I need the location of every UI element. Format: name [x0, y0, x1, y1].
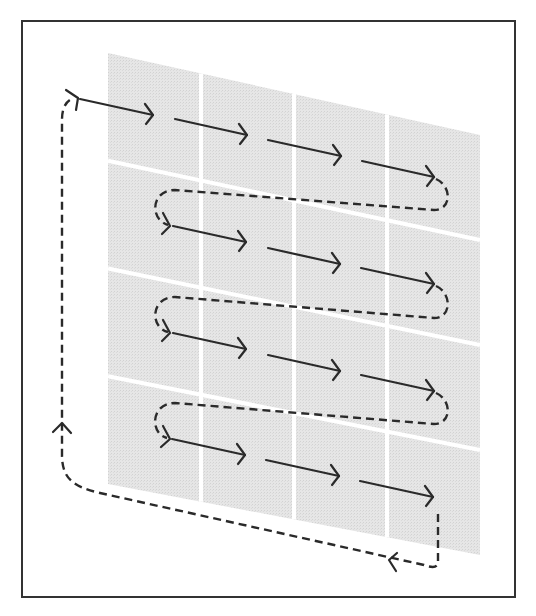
serpentine-diagram — [0, 0, 536, 616]
arrowhead-start — [66, 90, 78, 110]
arrowhead-bottom-left — [389, 553, 397, 571]
grid-panel — [108, 53, 480, 555]
